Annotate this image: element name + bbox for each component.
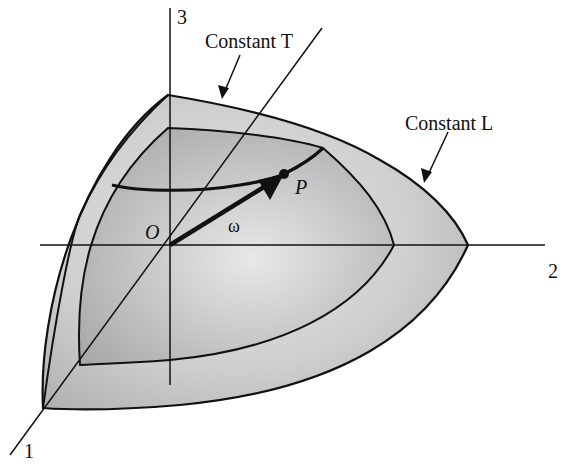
point-p-label: P xyxy=(294,176,307,198)
constant-l-label: Constant L xyxy=(405,112,493,134)
point-p-dot xyxy=(279,169,289,179)
axis-2-label: 2 xyxy=(548,260,558,282)
axis-3-label: 3 xyxy=(177,6,187,28)
constant-t-arrowhead-icon xyxy=(218,85,229,99)
constant-l-pointer xyxy=(428,132,448,175)
diagram-canvas: 3 2 1 Constant T Constant L O P ω xyxy=(0,0,581,472)
omega-label: ω xyxy=(228,216,240,236)
constant-t-label: Constant T xyxy=(205,30,293,52)
origin-label: O xyxy=(145,221,159,243)
axis-1-label: 1 xyxy=(24,440,34,462)
